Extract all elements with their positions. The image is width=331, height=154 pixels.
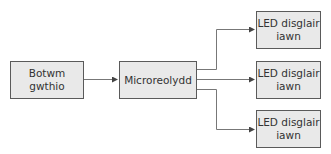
led-label-1: LED disglair iawn bbox=[257, 17, 320, 43]
arrow-controller-to-led-3 bbox=[197, 90, 254, 130]
microcontroller-label: Microreolydd bbox=[124, 74, 192, 87]
led-block-3: LED disglair iawn bbox=[256, 110, 321, 148]
arrow-controller-to-led-1 bbox=[197, 30, 254, 70]
push-button-label: Botwm gwthio bbox=[11, 67, 83, 93]
led-label-2: LED disglair iawn bbox=[257, 67, 320, 93]
microcontroller-block: Microreolydd bbox=[119, 61, 197, 99]
led-block-2: LED disglair iawn bbox=[256, 61, 321, 99]
led-label-3: LED disglair iawn bbox=[257, 116, 320, 142]
led-block-1: LED disglair iawn bbox=[256, 11, 321, 49]
push-button-block: Botwm gwthio bbox=[10, 61, 84, 99]
